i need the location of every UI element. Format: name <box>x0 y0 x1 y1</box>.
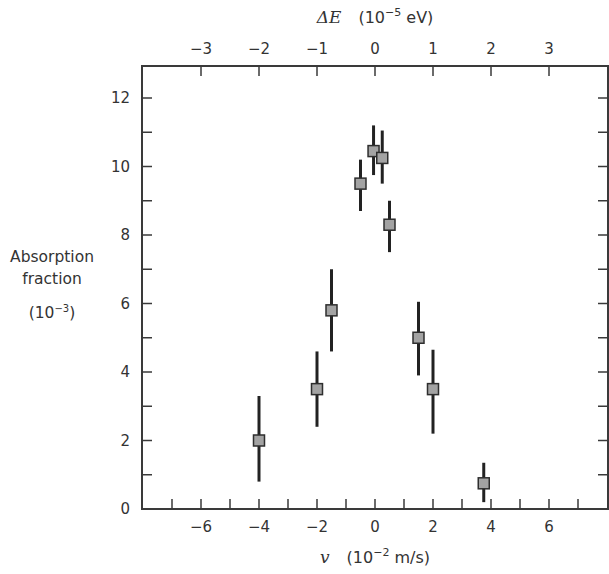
data-points <box>254 125 490 502</box>
data-point <box>413 302 424 376</box>
x-tick-label: −4 <box>248 518 270 536</box>
square-marker <box>428 384 439 395</box>
square-marker <box>254 435 265 446</box>
y-tick-label: 4 <box>120 363 130 381</box>
data-point <box>326 269 337 351</box>
top-x-tick-label: −3 <box>190 40 212 58</box>
top-x-tick-label: 2 <box>486 40 496 58</box>
data-point <box>312 351 323 426</box>
bottom-axis-title: v (10−2 m/s) <box>320 546 430 567</box>
bottom-axis-variable: v <box>320 547 330 567</box>
y-tick-label: 0 <box>120 500 130 518</box>
top-x-tick-label: −2 <box>248 40 270 58</box>
top-x-tick-label: 3 <box>544 40 554 58</box>
square-marker <box>478 478 489 489</box>
y-axis-title: Absorption fraction (10−3) <box>0 246 104 324</box>
square-marker <box>355 178 366 189</box>
y-tick-label: 12 <box>111 89 130 107</box>
y-axis-unit-prefix: (10 <box>29 304 55 322</box>
top-x-tick-label: 1 <box>428 40 438 58</box>
x-tick-label: −2 <box>306 518 328 536</box>
data-point <box>478 463 489 502</box>
data-point <box>428 350 439 434</box>
top-axis-unit-exponent: −5 <box>385 6 401 19</box>
x-tick-label: −6 <box>190 518 212 536</box>
y-axis-unit-suffix: ) <box>69 304 75 322</box>
y-tick-label: 2 <box>120 432 130 450</box>
square-marker <box>384 219 395 230</box>
y-axis-unit: (10−3) <box>0 298 104 324</box>
x-tick-label: 0 <box>370 518 380 536</box>
square-marker <box>326 305 337 316</box>
x-tick-label: 2 <box>428 518 438 536</box>
data-point <box>254 396 265 482</box>
y-tick-label: 8 <box>120 226 130 244</box>
square-marker <box>413 332 424 343</box>
y-axis-title-line-2: fraction <box>0 268 104 290</box>
x-tick-label: 4 <box>486 518 496 536</box>
top-axis-unit-suffix: eV) <box>401 8 433 27</box>
y-axis-unit-exponent: −3 <box>54 303 69 314</box>
data-point <box>377 131 388 184</box>
data-point <box>355 160 366 211</box>
top-x-tick-label: −1 <box>306 40 328 58</box>
y-tick-label: 10 <box>111 158 130 176</box>
y-axis-title-line-1: Absorption <box>0 246 104 268</box>
top-x-tick-label: 0 <box>370 40 380 58</box>
square-marker <box>377 152 388 163</box>
top-axis-unit-prefix: (10 <box>358 8 385 27</box>
top-axis-title: ΔE (10−5 eV) <box>316 6 434 27</box>
bottom-axis-unit-suffix: m/s) <box>389 548 430 567</box>
x-tick-label: 6 <box>544 518 554 536</box>
y-tick-label: 6 <box>120 295 130 313</box>
bottom-axis-unit-exponent: −2 <box>373 546 389 559</box>
data-point <box>368 125 379 175</box>
data-point <box>384 201 395 252</box>
top-axis-variable: ΔE <box>316 7 342 27</box>
bottom-axis-unit-prefix: (10 <box>347 548 374 567</box>
square-marker <box>312 384 323 395</box>
